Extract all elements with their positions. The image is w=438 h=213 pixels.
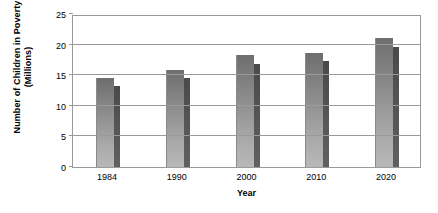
y-axis-tick	[69, 44, 73, 45]
bar-front	[305, 53, 323, 167]
y-axis-tick	[69, 166, 73, 167]
y-axis-tick-label: 15	[42, 72, 66, 81]
x-axis-tick-label: 2010	[286, 172, 346, 183]
y-axis-tick-label: 10	[42, 103, 66, 112]
y-axis-title: Number of Children in Poverty (Millions)	[12, 0, 34, 152]
y-axis-tick-label: 5	[42, 133, 66, 142]
y-axis-tick-label: 25	[42, 11, 66, 20]
y-axis-tick-label: 20	[42, 42, 66, 51]
bar-front	[375, 38, 393, 167]
gridline	[73, 44, 420, 45]
plot-area	[72, 15, 421, 168]
bar-group	[96, 16, 120, 167]
x-axis-tick-label: 2000	[217, 172, 277, 183]
gridline	[73, 135, 420, 136]
x-axis-tick-label: 1990	[147, 172, 207, 183]
y-axis-tick	[69, 135, 73, 136]
bar-back	[393, 47, 399, 167]
y-axis-tick-label: 0	[42, 164, 66, 173]
bar-front	[96, 78, 114, 167]
bars-layer	[73, 16, 420, 167]
y-axis-tick	[69, 105, 73, 106]
bar-front	[166, 70, 184, 167]
bar-group	[375, 16, 399, 167]
bar-group	[236, 16, 260, 167]
bar-group	[305, 16, 329, 167]
y-axis-tick-labels: 0510152025	[42, 0, 66, 213]
y-axis-tick	[69, 74, 73, 75]
bar-group	[166, 16, 190, 167]
bar-back	[254, 64, 260, 167]
gridline	[73, 105, 420, 106]
bar-front	[236, 55, 254, 167]
x-axis-tick-label: 2020	[356, 172, 416, 183]
x-axis-title: Year	[72, 188, 421, 199]
x-axis-tick-labels: 19841990200020102020	[72, 172, 421, 186]
y-axis-tick	[69, 13, 73, 14]
gridline	[73, 74, 420, 75]
bar-chart: Number of Children in Poverty (Millions)…	[0, 0, 438, 213]
bar-back	[323, 61, 329, 167]
bar-back	[114, 86, 120, 167]
x-axis-tick-label: 1984	[77, 172, 137, 183]
bar-back	[184, 78, 190, 167]
